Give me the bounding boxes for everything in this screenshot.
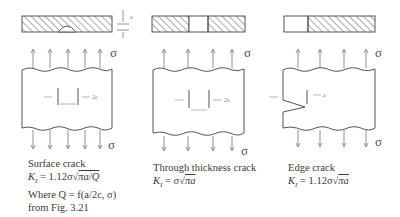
surface-cross-section [22, 16, 112, 32]
through-crack-caption: Through thickness crack KI = σ√πa [153, 161, 256, 192]
stress-symbol-bottom: σ [375, 134, 382, 149]
depth-indicator [117, 10, 129, 38]
edge-crack-title: Edge crack [288, 161, 349, 174]
stress-symbol-bottom: σ [108, 137, 115, 152]
through-cross-section [152, 16, 245, 32]
plate-outline [283, 68, 375, 131]
surface-crack-formula: KI = 1.12σ√πa/Q [28, 170, 116, 188]
through-crack-panel: σ 2a σ [152, 16, 251, 158]
depth-label: a [130, 14, 133, 20]
edge-crack-caption: Edge crack KI = 1.12σ√πa [288, 161, 349, 192]
plate-outline [153, 68, 244, 136]
stress-symbol-top: σ [110, 45, 117, 60]
surface-crack-panel: a σ 2c σ [22, 10, 133, 152]
edge-crack-panel: σ a σ [269, 16, 382, 149]
surface-crack-title: Surface crack [28, 157, 116, 170]
top-stress-arrows [296, 49, 368, 68]
stress-symbol-top: σ [244, 45, 251, 60]
plate-outline [22, 68, 112, 131]
surface-crack-note-1: Where Q = f(a/2c, σ) [28, 188, 116, 201]
edge-crack-formula: KI = 1.12σ√πa [288, 174, 349, 192]
through-crack-formula: KI = σ√πa [153, 174, 256, 192]
stress-symbol-bottom: σ [241, 143, 248, 158]
bottom-stress-arrows [162, 136, 234, 151]
top-stress-arrows [162, 49, 234, 68]
crack-length-label: 2c [92, 94, 98, 100]
stress-symbol-top: σ [375, 45, 382, 60]
crack-depth-label: a [323, 92, 326, 98]
through-crack-title: Through thickness crack [153, 161, 256, 174]
bottom-stress-arrows [31, 130, 102, 149]
crack-length-label: 2a [224, 97, 230, 103]
surface-crack-note-2: from Fig. 3.21 [28, 201, 116, 214]
surface-crack-caption: Surface crack KI = 1.12σ√πa/Q Where Q = … [28, 157, 116, 214]
edge-cross-section [284, 16, 375, 32]
top-stress-arrows [31, 49, 102, 68]
bottom-stress-arrows [296, 130, 368, 147]
